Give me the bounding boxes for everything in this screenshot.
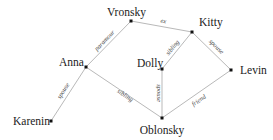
edge-label-spouse-dolly-oblonsky: spouse [156, 84, 163, 102]
edge-label-sibling-anna-oblonsky: sibling [116, 87, 135, 103]
node-label-kitty: Kitty [199, 16, 223, 29]
node-label-oblonsky: Oblonsky [140, 124, 185, 137]
node-label-dolly: Dolly [137, 57, 163, 70]
node-dot-kitty [191, 31, 194, 34]
relationship-graph: paramour ex sibling spouse spouse siblin… [0, 0, 273, 140]
node-dot-oblonsky [161, 117, 164, 120]
edge-levin-oblonsky [162, 70, 231, 118]
node-label-karenin: Karenin [13, 115, 50, 127]
node-label-levin: Levin [240, 64, 267, 76]
edge-label-ex: ex [160, 17, 167, 25]
node-dot-levin [230, 69, 233, 72]
node-label-anna: Anna [59, 56, 84, 68]
edge-label-sibling-kitty-dolly: sibling [164, 38, 181, 57]
edge-label-spouse-anna-karenin: spouse [55, 81, 71, 100]
node-label-vronsky: Vronsky [107, 6, 146, 19]
edge-label-friend: friend [190, 92, 207, 107]
edge-anna-vronsky [86, 21, 131, 67]
edge-label-spouse-kitty-levin: spouse [208, 38, 226, 55]
node-dot-vronsky [130, 20, 133, 23]
node-dot-anna [85, 66, 88, 69]
